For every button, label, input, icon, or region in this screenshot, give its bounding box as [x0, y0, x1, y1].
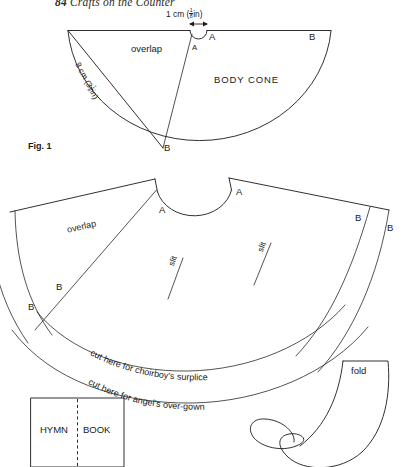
pattern-page: 84Crafts on the Counter 1 cm (18in) 8 cm…: [0, 0, 406, 467]
cut-line-label-surplice: cut here for choirboy's surplice: [89, 348, 208, 383]
cut-line-text-surplice: cut here for choirboy's surplice: [89, 348, 208, 383]
cut-line-text-layer: cut here for choirboy's surplice cut her…: [0, 0, 406, 467]
wing-fold-label: fold: [351, 365, 366, 376]
hymn-book-word-right: BOOK: [83, 424, 110, 435]
hymn-book-word-left: HYMN: [40, 424, 68, 435]
